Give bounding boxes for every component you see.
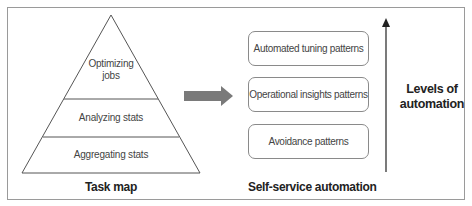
pyramid-level-label-line1: Optimizing — [71, 58, 151, 70]
levels-of-automation-label: Levels of automation — [397, 82, 467, 112]
pattern-box-operational-insights: Operational insights patterns — [248, 77, 369, 112]
levels-label-line2: automation — [397, 97, 467, 112]
up-arrow-icon — [382, 18, 390, 172]
right-arrow-icon — [184, 86, 233, 106]
levels-label-line1: Levels of — [397, 82, 467, 97]
pyramid-level-label-line2: jobs — [71, 70, 151, 82]
pattern-box-automated-tuning: Automated tuning patterns — [248, 31, 369, 66]
pyramid-level-optimizing-jobs: Optimizing jobs — [71, 58, 151, 82]
task-map-title: Task map — [71, 180, 151, 194]
pattern-box-avoidance: Avoidance patterns — [248, 124, 369, 159]
pyramid-level-analyzing-stats: Analyzing stats — [61, 112, 161, 124]
pyramid-level-aggregating-stats: Aggregating stats — [51, 149, 171, 161]
self-service-automation-title: Self-service automation — [248, 180, 370, 194]
